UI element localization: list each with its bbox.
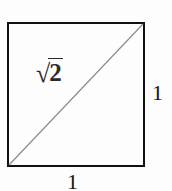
unit-square-figure: √2 1 1: [0, 0, 172, 191]
square-outline: [7, 22, 145, 167]
right-side-length-label: 1: [152, 82, 163, 104]
radicand-value: 2: [48, 58, 63, 86]
bottom-side-length-label: 1: [67, 171, 78, 191]
hypotenuse-length-label: √2: [36, 60, 63, 87]
